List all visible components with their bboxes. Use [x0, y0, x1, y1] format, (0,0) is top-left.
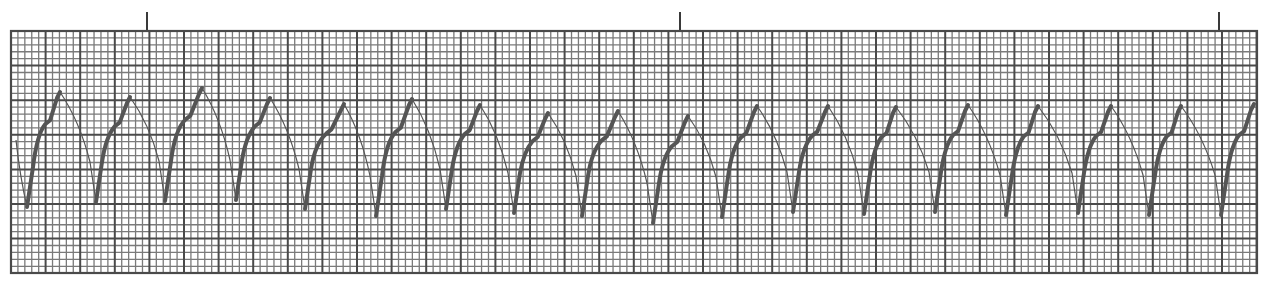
ecg-strip-svg — [0, 0, 1261, 293]
paper-background — [0, 0, 1261, 293]
